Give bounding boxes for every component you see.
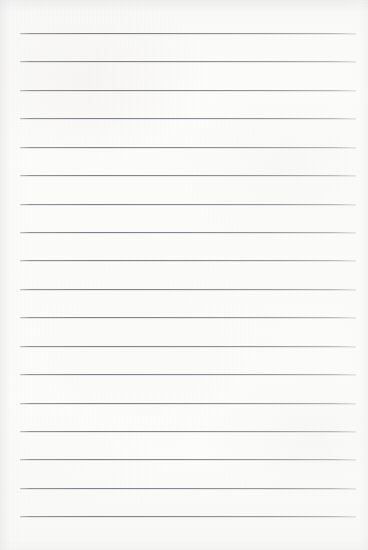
- rule-line: [20, 317, 356, 318]
- rule-line: [20, 147, 356, 148]
- rule-line: [20, 61, 356, 62]
- rule-line: [20, 204, 356, 205]
- rule-line: [20, 488, 356, 489]
- rule-line: [20, 431, 356, 432]
- notebook-page: [0, 0, 368, 550]
- rule-line: [20, 403, 356, 404]
- ruled-line-layer: [0, 0, 368, 550]
- rule-line: [20, 260, 356, 261]
- rule-line: [20, 374, 356, 375]
- rule-line: [20, 346, 356, 347]
- rule-line: [20, 289, 356, 290]
- rule-line: [20, 459, 356, 460]
- rule-line: [20, 516, 356, 517]
- rule-line: [20, 90, 356, 91]
- rule-line: [20, 175, 356, 176]
- rule-line: [20, 232, 356, 233]
- rule-line: [20, 33, 356, 34]
- rule-line: [20, 118, 356, 119]
